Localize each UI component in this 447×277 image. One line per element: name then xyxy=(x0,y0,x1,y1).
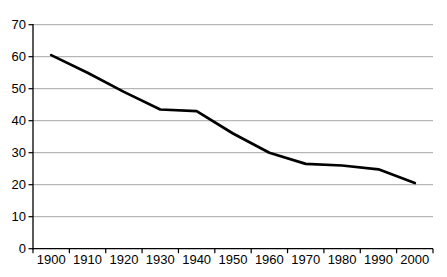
y-axis-tick-label: 30 xyxy=(12,145,26,160)
x-axis-tick-label: 1920 xyxy=(109,252,138,267)
x-axis-tick-label: 1950 xyxy=(219,252,248,267)
x-axis-tick-label: 1910 xyxy=(73,252,102,267)
x-axis-tick-label: 1900 xyxy=(37,252,66,267)
x-axis-tick-label: 1970 xyxy=(291,252,320,267)
y-axis-tick-label: 10 xyxy=(12,209,26,224)
x-axis-tick-label: 1940 xyxy=(182,252,211,267)
x-axis-tick-label: 1960 xyxy=(255,252,284,267)
y-axis-tick-label: 50 xyxy=(12,81,26,96)
y-axis-tick-label: 0 xyxy=(19,241,26,256)
chart-canvas: 0102030405060701900191019201930194019501… xyxy=(0,0,447,277)
x-axis-tick-label: 1930 xyxy=(146,252,175,267)
y-axis-tick-label: 60 xyxy=(12,49,26,64)
x-axis-tick-label: 1980 xyxy=(328,252,357,267)
x-axis-tick-label: 2000 xyxy=(400,252,429,267)
y-axis-tick-label: 70 xyxy=(12,17,26,32)
y-axis-tick-label: 20 xyxy=(12,177,26,192)
x-axis-tick-label: 1990 xyxy=(364,252,393,267)
y-axis-tick-label: 40 xyxy=(12,113,26,128)
line-chart-figure: 0102030405060701900191019201930194019501… xyxy=(0,0,447,277)
data-line xyxy=(51,55,415,183)
